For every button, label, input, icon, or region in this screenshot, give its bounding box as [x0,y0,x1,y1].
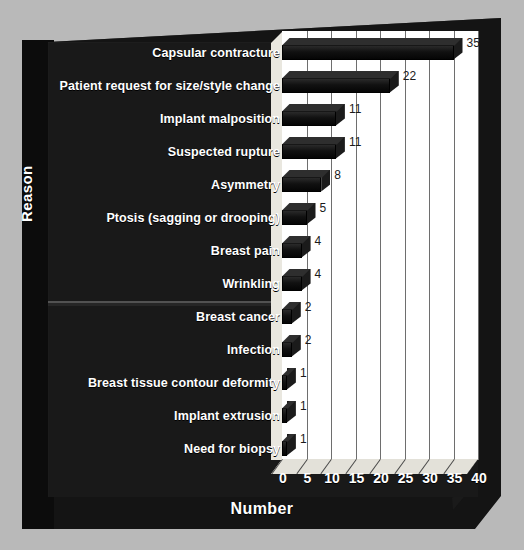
bar-front-face [282,78,390,93]
x-tick-35: 35 [447,470,463,486]
bar-value-label: 11 [349,102,361,116]
bar[interactable] [282,434,296,456]
bar[interactable] [282,236,311,258]
gridline-35 [454,31,455,460]
bar-front-face [282,111,336,126]
x-tick-25: 25 [398,470,414,486]
bar-front-face [282,375,287,390]
bar-value-label: 8 [334,168,341,182]
bar-front-face [282,441,287,456]
gridline-30 [429,31,430,460]
x-tick-0: 0 [279,470,287,486]
x-tick-40: 40 [471,470,487,486]
bar[interactable] [282,203,316,225]
bar-value-label: 35 [467,36,480,50]
bar-value-label: 2 [305,300,312,314]
bar-value-label: 4 [315,267,322,281]
x-tick-20: 20 [373,470,389,486]
x-tick-5: 5 [304,470,312,486]
bar-top-face [282,71,399,79]
gridline-20 [380,31,381,460]
bar[interactable] [282,302,301,324]
category-label: Wrinkling [222,277,280,291]
bar-value-label: 5 [320,201,327,215]
bar[interactable] [282,170,330,192]
chart-figure: Capsular contracturePatient request for … [0,0,524,550]
category-label: Implant extrusion [174,409,280,423]
gridline-15 [356,31,357,460]
category-label: Asymmetry [211,178,280,192]
bar-front-face [282,177,321,192]
x-axis-title: Number [0,500,524,518]
bar-front-face [282,309,292,324]
bar-value-label: 1 [300,432,307,446]
category-label: Ptosis (sagging or drooping) [106,211,280,225]
bar-front-face [282,243,302,258]
bar-front-face [282,144,336,159]
bar-value-label: 11 [349,135,361,149]
category-label: Breast pain [211,244,280,258]
bar[interactable] [282,368,296,390]
bar-front-face [282,210,307,225]
bar-top-face [282,104,345,112]
bar[interactable] [282,71,399,93]
x-tick-10: 10 [324,470,340,486]
plot-area [282,31,478,460]
bar-top-face [282,38,463,46]
bar-front-face [282,408,287,423]
gridline-25 [405,31,406,460]
bar[interactable] [282,269,311,291]
bar-top-face [282,170,330,178]
bar-value-label: 22 [403,69,416,83]
bar-value-label: 1 [300,399,307,413]
category-label: Patient request for size/style change [60,79,280,93]
x-tick-15: 15 [349,470,365,486]
bar[interactable] [282,38,463,60]
bar[interactable] [282,401,296,423]
bar-value-label: 2 [305,333,312,347]
category-label: Breast cancer [196,310,280,324]
bar-value-label: 4 [315,234,322,248]
gridline-40 [478,31,479,460]
bar-front-face [282,45,454,60]
bar-value-label: 1 [300,366,307,380]
bar-top-face [282,137,345,145]
x-tick-30: 30 [422,470,438,486]
bar[interactable] [282,335,301,357]
y-axis-title: Reason [18,165,35,222]
gridline-10 [331,31,332,460]
category-label: Breast tissue contour deformity [88,376,280,390]
bar-front-face [282,276,302,291]
category-label: Implant malposition [160,112,280,126]
bar-front-face [282,342,292,357]
category-label: Need for biopsy [184,442,280,456]
bar[interactable] [282,137,345,159]
category-label: Suspected rupture [168,145,280,159]
bar[interactable] [282,104,345,126]
category-label: Infection [227,343,280,357]
category-label: Capsular contracture [152,46,280,60]
